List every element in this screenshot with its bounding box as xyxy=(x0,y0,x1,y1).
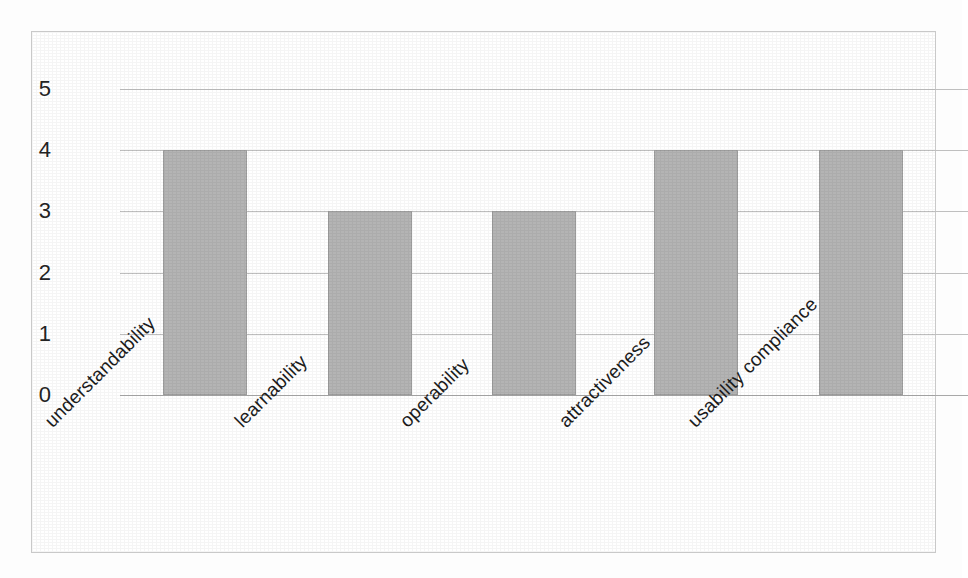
plot-area xyxy=(120,89,968,395)
gridline-0-baseline xyxy=(120,395,968,396)
bar-operability[interactable] xyxy=(492,211,576,395)
y-tick-label-4: 4 xyxy=(23,139,51,161)
y-tick-label-1: 1 xyxy=(23,323,51,345)
bar-usability-compliance[interactable] xyxy=(819,150,903,395)
y-tick-label-5: 5 xyxy=(23,78,51,100)
bar-understandability[interactable] xyxy=(163,150,247,395)
y-tick-label-3: 3 xyxy=(23,200,51,222)
bar-attractiveness[interactable] xyxy=(654,150,738,395)
y-tick-label-2: 2 xyxy=(23,262,51,284)
y-tick-label-0: 0 xyxy=(23,384,51,406)
bar-learnability[interactable] xyxy=(328,211,412,395)
chart-frame: 5 4 3 2 1 0 understandability learnabili… xyxy=(31,31,936,553)
gridline-5 xyxy=(120,89,968,90)
